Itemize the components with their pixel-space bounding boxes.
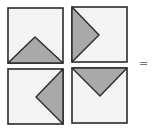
equals-sign: = [139, 58, 148, 69]
tile-top-right [72, 7, 127, 62]
tile-puzzle-diagram [0, 0, 157, 129]
tile-bottom-left [8, 69, 63, 124]
tile-bottom-right [72, 68, 127, 123]
tile-top-left [8, 8, 63, 63]
